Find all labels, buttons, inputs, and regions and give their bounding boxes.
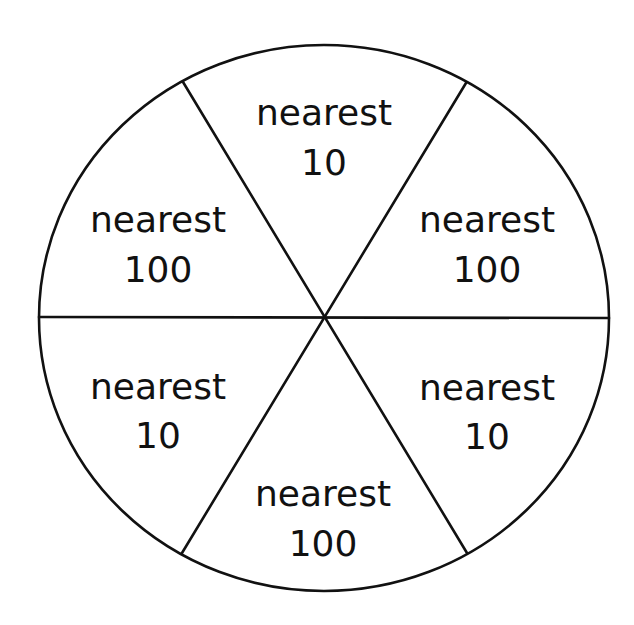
section-label-line1: nearest xyxy=(419,199,555,240)
section-label-line2: 100 xyxy=(453,249,522,290)
section-label-line1: nearest xyxy=(256,92,392,133)
section-label-line1: nearest xyxy=(419,367,555,408)
section-label-line2: 10 xyxy=(135,415,181,456)
section-label-line2: 100 xyxy=(124,249,193,290)
section-label-line2: 100 xyxy=(289,523,358,564)
section-label-line2: 10 xyxy=(464,416,510,457)
section-label-line1: nearest xyxy=(90,366,226,407)
spinner-diagram: nearest 10 nearest 100 nearest 10 neares… xyxy=(0,0,634,625)
section-label-line2: 10 xyxy=(301,142,347,183)
section-label-line1: nearest xyxy=(90,199,226,240)
section-label-line1: nearest xyxy=(255,473,391,514)
